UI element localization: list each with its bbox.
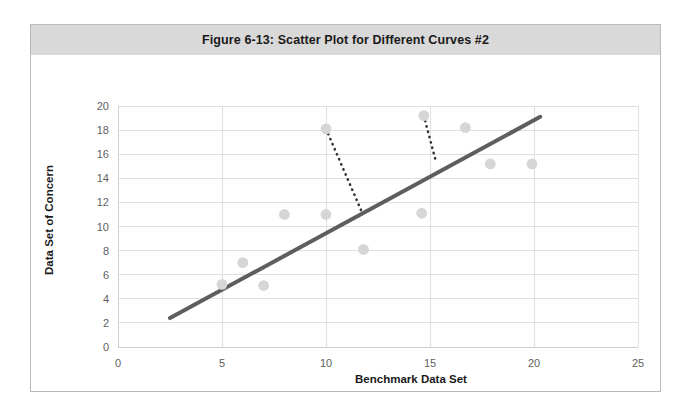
residual-drop-1: [326, 129, 361, 211]
y-tick-label: 8: [103, 245, 109, 257]
scatter-point: [217, 279, 228, 290]
scatter-point: [527, 158, 538, 169]
scatter-point: [237, 257, 248, 268]
y-tick-label: 20: [97, 100, 109, 112]
y-tick-labels: 02468101214161820: [97, 100, 109, 353]
x-tick-label: 10: [320, 357, 332, 369]
x-axis-title: Benchmark Data Set: [355, 373, 467, 385]
y-tick-label: 16: [97, 148, 109, 160]
scatter-point: [258, 280, 269, 291]
figure-title-band: Figure 6-13: Scatter Plot for Different …: [31, 25, 660, 55]
scatter-point: [485, 158, 496, 169]
x-tick-label: 20: [528, 357, 540, 369]
x-tick-label: 25: [632, 357, 644, 369]
y-tick-label: 12: [97, 196, 109, 208]
figure-frame: Figure 6-13: Scatter Plot for Different …: [30, 24, 661, 392]
x-tick-label: 15: [424, 357, 436, 369]
x-tick-label: 0: [115, 357, 121, 369]
y-gridlines: [118, 106, 638, 347]
y-tick-label: 6: [103, 269, 109, 281]
scatter-points: [217, 110, 538, 291]
scatter-point: [358, 244, 369, 255]
y-tick-label: 18: [97, 124, 109, 136]
y-tick-label: 0: [103, 341, 109, 353]
y-axis-title: Data Set of Concern: [43, 165, 55, 275]
chart-canvas: 02468101214161820 0510152025 Data Set of…: [31, 55, 660, 391]
scatter-point: [460, 122, 471, 133]
x-tick-label: 5: [219, 357, 225, 369]
y-tick-label: 10: [97, 221, 109, 233]
scatter-point: [416, 208, 427, 219]
y-tick-label: 2: [103, 317, 109, 329]
x-tick-labels: 0510152025: [115, 357, 644, 369]
scatter-point: [279, 209, 290, 220]
figure-title: Figure 6-13: Scatter Plot for Different …: [202, 33, 489, 47]
y-tick-label: 14: [97, 172, 109, 184]
scatter-point: [418, 110, 429, 121]
y-tick-label: 4: [103, 293, 109, 305]
scatter-point: [321, 209, 332, 220]
scatter-plot: 02468101214161820 0510152025 Data Set of…: [31, 55, 660, 391]
scatter-point: [321, 123, 332, 134]
